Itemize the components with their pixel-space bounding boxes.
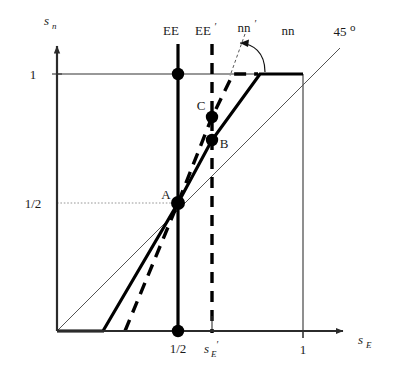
y-axis-label-base: s <box>44 13 49 28</box>
forty-five-label-sup: o <box>350 21 356 33</box>
forty-five-degree-line <box>57 48 340 331</box>
point-label-c: C <box>197 98 206 113</box>
forty-five-degree-label: 45 o <box>334 21 357 39</box>
point-ee-top <box>172 68 184 80</box>
x-tick-label-one: 1 <box>300 342 307 357</box>
ee-prime-label-mark: ′ <box>214 21 217 32</box>
ee-prime-label-base: EE <box>195 23 211 38</box>
y-axis-label: s n <box>44 13 57 31</box>
nn-prime-label-base: nn <box>238 20 252 35</box>
x-tick-label-sE-prime: s E ′ <box>204 339 219 359</box>
point-label-a: A <box>161 187 171 202</box>
nn-prime-label-mark: ′ <box>254 18 257 29</box>
diagram-canvas: s n s E 1 1/2 1/2 s E ′ 1 EE EE ′ nn ′ n… <box>0 0 393 375</box>
x-tick-label-sE-base: s <box>204 341 209 356</box>
shift-arrow-curve <box>240 43 265 72</box>
x-axis-label-base: s <box>358 332 363 347</box>
shift-arrow-head <box>240 40 249 48</box>
ee-prime-curve-label: EE ′ <box>195 21 217 38</box>
x-tick-label-half: 1/2 <box>170 341 187 356</box>
forty-five-label-base: 45 <box>334 24 347 39</box>
point-c <box>206 111 218 123</box>
nn-curve-label: nn <box>282 23 296 38</box>
diagram-figure: s n s E 1 1/2 1/2 s E ′ 1 EE EE ′ nn ′ n… <box>0 0 393 375</box>
nn-prime-curve <box>125 74 258 331</box>
point-b <box>206 134 218 146</box>
point-a <box>171 196 185 210</box>
point-label-b: B <box>220 136 229 151</box>
x-tick-label-sE-sub: E <box>210 349 217 359</box>
x-axis-label: s E <box>358 332 372 350</box>
y-axis-label-sub: n <box>52 21 57 31</box>
ee-curve-label: EE <box>163 23 179 38</box>
nn-prime-pointer-line <box>230 34 245 76</box>
point-ee-bottom <box>172 325 184 337</box>
x-tick-label-sE-prime-mark: ′ <box>216 339 219 350</box>
x-axis-label-sub: E <box>365 340 372 350</box>
nn-prime-curve-label: nn ′ <box>238 18 258 35</box>
y-tick-label-one: 1 <box>30 67 37 82</box>
nn-prime-annotation <box>230 34 265 76</box>
y-tick-label-half: 1/2 <box>25 196 42 211</box>
